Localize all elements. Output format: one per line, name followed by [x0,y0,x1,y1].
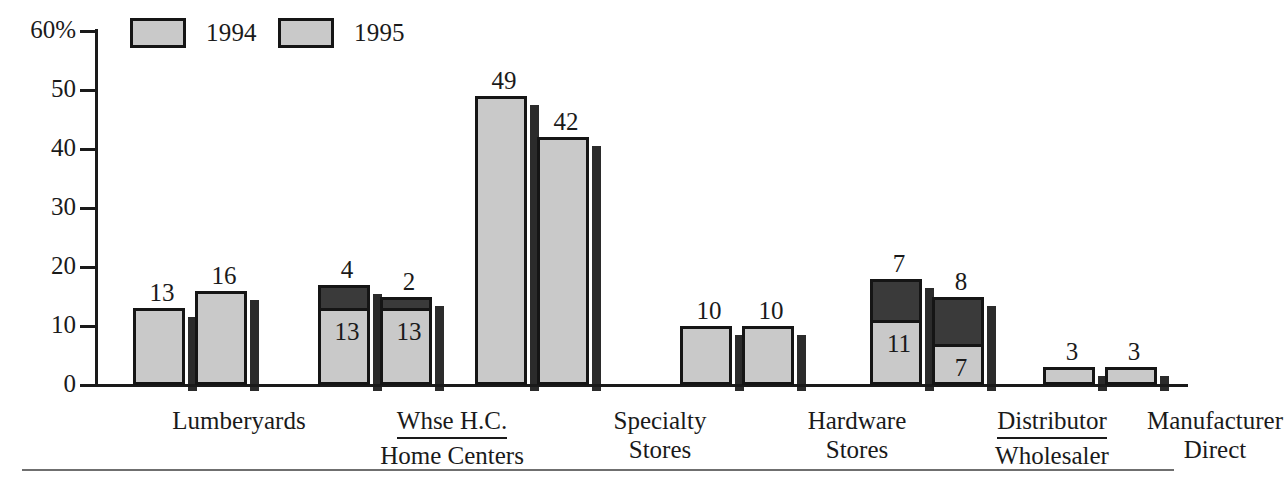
bar-shadow [250,300,259,391]
bar-inner-value-distributor-wholesaler-1994: 11 [873,331,925,356]
bar-shadow [797,335,806,391]
bar-manufacturer-direct-1995: 3 [1105,367,1157,385]
bar-shadow [987,306,996,392]
bar-value-label-specialty-stores-1995: 42 [540,109,592,134]
bar-whse-home-centers-1995: 132 [380,297,432,386]
bar-inner-value-distributor-wholesaler-1995: 7 [935,355,987,380]
footer-divider-rule [22,469,1174,471]
bar-segment-top-whse-home-centers-1994 [318,285,370,312]
bar-lumberyards-1994: 13 [133,308,185,385]
bar-shadow [435,306,444,392]
bar-hardware-stores-1995: 10 [742,326,794,385]
bar-value-label-distributor-wholesaler-1994: 7 [873,251,925,276]
bar-value-label-whse-home-centers-1995: 2 [383,269,435,294]
bar-segment-top-distributor-wholesaler-1995 [932,297,984,347]
bar-value-label-distributor-wholesaler-1995: 8 [935,269,987,294]
bar-lumberyards-1995: 16 [195,291,247,385]
bar-specialty-stores-1995: 42 [537,137,589,385]
bar-value-label-hardware-stores-1994: 10 [683,298,735,323]
bar-segment-top-whse-home-centers-1995 [380,297,432,312]
bar-shadow [1160,376,1169,391]
bar-value-label-hardware-stores-1995: 10 [745,298,797,323]
bar-value-label-manufacturer-direct-1995: 3 [1108,339,1160,364]
category-label-line1: Manufacturer [1090,406,1288,435]
bar-inner-value-whse-home-centers-1994: 13 [321,319,373,344]
category-label-line1: Whse H.C. [397,406,507,439]
bar-whse-home-centers-1994: 134 [318,285,370,385]
bar-distributor-wholesaler-1994: 117 [870,279,922,385]
bar-hardware-stores-1994: 10 [680,326,732,385]
bar-distributor-wholesaler-1995: 78 [932,297,984,386]
category-label-manufacturer-direct: ManufacturerDirect [1090,406,1288,464]
category-label-line2: Direct [1090,435,1288,464]
x-axis-category-labels: LumberyardsWhse H.C.Home CentersSpecialt… [0,392,1198,472]
bar-shadow [592,146,601,391]
bar-value-label-lumberyards-1994: 13 [136,280,188,305]
bar-value-label-manufacturer-direct-1994: 3 [1046,339,1098,364]
bar-inner-value-whse-home-centers-1995: 13 [383,319,435,344]
bar-specialty-stores-1994: 49 [475,96,527,385]
bar-segment-top-distributor-wholesaler-1994 [870,279,922,323]
plot-area: 1316134132494210101177833 [0,0,1198,390]
bar-value-label-whse-home-centers-1994: 4 [321,257,373,282]
bar-value-label-lumberyards-1995: 16 [198,263,250,288]
bar-value-label-specialty-stores-1994: 49 [478,68,530,93]
bar-manufacturer-direct-1994: 3 [1043,367,1095,385]
